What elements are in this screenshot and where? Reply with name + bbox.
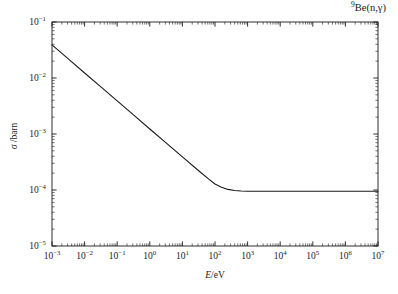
x-tick-label: 102 [209,249,223,261]
plot-area-background [52,22,378,246]
y-tick-label: 10−3 [29,127,46,139]
y-axis-tick-labels: 10−110−210−310−410−5 [29,15,46,251]
x-axis-title: E/eV [204,270,225,280]
x-tick-label: 101 [176,249,189,261]
figure-canvas: 9Be(n,γ) 10−310−210−11001011021031041051… [0,0,398,294]
x-tick-label: 10−3 [44,249,61,261]
x-tick-label: 100 [143,249,157,261]
x-tick-label: 10−2 [76,249,93,261]
plot-title: 9Be(n,γ) [351,2,386,13]
x-tick-label: 105 [306,249,320,261]
y-tick-label: 10−1 [29,15,46,27]
cross-section-log-log-plot: 10−310−210−1100101102103104105106107 10−… [0,0,398,294]
element-symbol: Be [355,2,367,13]
y-axis-title: σ /barn [9,122,19,149]
x-tick-label: 103 [241,249,255,261]
y-tick-label: 10−4 [29,183,46,195]
x-tick-label: 10−1 [109,249,126,261]
y-tick-label: 10−2 [29,71,46,83]
x-axis-tick-labels: 10−310−210−1100101102103104105106107 [44,249,385,261]
reaction-channel: (n,γ) [366,2,386,13]
x-tick-label: 107 [372,249,386,261]
x-tick-label: 106 [339,249,353,261]
y-tick-label: 10−5 [29,239,46,251]
x-tick-label: 104 [274,249,288,261]
